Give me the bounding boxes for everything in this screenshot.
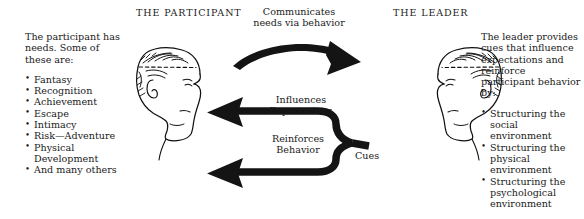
list-item-line: psychological: [490, 187, 582, 198]
leader-heading: THE LEADER: [393, 7, 468, 18]
communicates-label: Communicates needs via behavior: [240, 6, 358, 29]
list-item: Structuring the social environment: [481, 108, 582, 142]
list-item: Recognition: [25, 85, 137, 96]
list-item-line: Achievement: [34, 96, 137, 107]
reinforces-line-1: Reinforces: [253, 133, 343, 144]
influences-line-1: Influences: [253, 94, 349, 105]
leader-methods-list: Structuring the social environment Struc…: [481, 108, 582, 210]
participant-head-icon: [137, 48, 201, 160]
list-item-line: environment: [490, 198, 582, 209]
leader-intro-line: reinforce: [481, 65, 582, 76]
influences-line-2: Expectations: [253, 105, 349, 116]
list-item: Structuring the physical environment: [481, 142, 582, 176]
leader-intro: The leader provides cues that influence …: [481, 31, 582, 99]
reinforces-line-2: Behavior: [253, 144, 343, 155]
participant-intro-line: needs. Some of: [25, 42, 137, 53]
list-item-line: Structuring the: [490, 108, 582, 119]
participant-intro-line: these are:: [25, 54, 137, 65]
participant-intro-line: The participant has: [25, 31, 137, 42]
list-item-line: physical: [490, 153, 582, 164]
list-item-line: environment: [490, 130, 582, 141]
leader-intro-line: The leader provides: [481, 31, 582, 42]
influences-expectations-label: Influences Expectations: [253, 94, 349, 117]
list-item: Risk—Adventure: [25, 130, 137, 141]
list-item: Structuring the psychological environmen…: [481, 176, 582, 210]
list-item-line: environment: [490, 164, 582, 175]
communicates-line-2: needs via behavior: [240, 17, 358, 28]
list-item: And many others: [25, 164, 137, 175]
list-item-line: Structuring the: [490, 176, 582, 187]
reinforces-behavior-label: Reinforces Behavior: [253, 133, 343, 156]
list-item: Escape: [25, 108, 137, 119]
list-item: Physical Development: [25, 142, 137, 165]
leader-text-panel: The leader provides cues that influence …: [481, 31, 582, 209]
cues-arrowheads: [207, 97, 243, 188]
participant-needs-list: Fantasy Recognition Achievement Escape I…: [25, 74, 137, 176]
list-item: Achievement: [25, 96, 137, 107]
leader-intro-line: cues that influence: [481, 42, 582, 53]
list-item-line: Risk—Adventure: [34, 130, 137, 141]
relationship-diagram: THE PARTICIPANT THE LEADER The participa…: [0, 0, 584, 219]
communicates-arrow: [233, 41, 361, 75]
cues-label: Cues: [355, 150, 379, 161]
list-item-line: Development: [34, 153, 137, 164]
participant-intro: The participant has needs. Some of these…: [25, 31, 137, 65]
list-item-line: Physical: [34, 142, 137, 153]
leader-intro-line: participant behavior: [481, 76, 582, 87]
list-item-line: Fantasy: [34, 74, 137, 85]
list-item: Fantasy: [25, 74, 137, 85]
list-item-line: Structuring the: [490, 142, 582, 153]
communicates-line-1: Communicates: [240, 6, 358, 17]
leader-intro-line: by:: [481, 87, 582, 98]
leader-intro-line: expectations and: [481, 54, 582, 65]
list-item-line: social: [490, 119, 582, 130]
participant-text-panel: The participant has needs. Some of these…: [25, 31, 137, 176]
list-item-line: Escape: [34, 108, 137, 119]
list-item-line: Intimacy: [34, 119, 137, 130]
list-item-line: And many others: [34, 164, 137, 175]
list-item: Intimacy: [25, 119, 137, 130]
list-item-line: Recognition: [34, 85, 137, 96]
participant-heading: THE PARTICIPANT: [136, 7, 242, 18]
